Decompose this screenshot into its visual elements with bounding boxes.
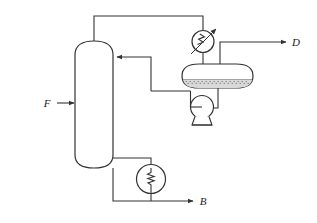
distillate-stream-line xyxy=(220,42,286,64)
process-flow-diagram: F D B xyxy=(0,0,317,223)
pump-discharge-line xyxy=(151,91,191,107)
distillate-stream-label: D xyxy=(291,36,300,48)
reboiler[interactable] xyxy=(137,165,166,194)
distillation-column[interactable] xyxy=(75,41,113,168)
feed-stream-label: F xyxy=(43,97,51,109)
bottoms-stream-label: B xyxy=(200,195,207,207)
condenser[interactable] xyxy=(191,29,216,54)
pfd-canvas: F D B xyxy=(0,0,317,223)
reflux-drum[interactable] xyxy=(182,64,253,88)
overhead-vapor-line xyxy=(94,16,203,42)
reflux-pump[interactable] xyxy=(191,96,214,126)
reflux-return-line xyxy=(117,57,151,91)
